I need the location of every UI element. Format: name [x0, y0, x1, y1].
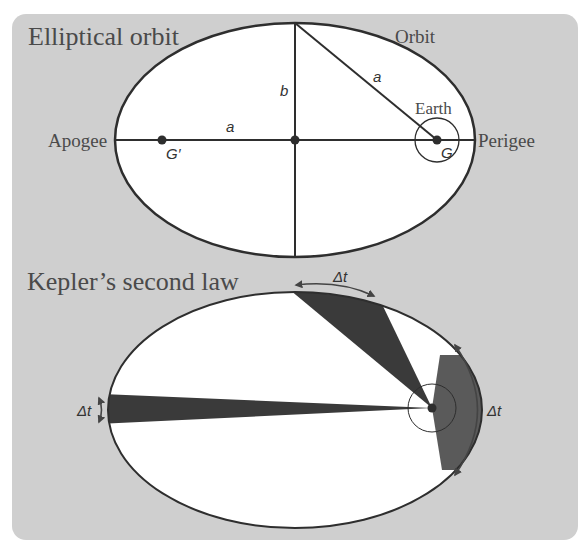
orbit-label: Orbit [395, 26, 436, 47]
semi-minor-label: b [280, 82, 288, 99]
semi-major-label: a [226, 118, 234, 135]
right-interval-label: Δt [486, 402, 502, 419]
focus-label: G [441, 144, 453, 161]
earth-label: Earth [415, 99, 452, 118]
focus-dot-bottom [428, 404, 437, 413]
diagonal-a-label: a [373, 68, 381, 85]
empty-focus-dot [158, 136, 167, 145]
empty-focus-label: G′ [166, 145, 182, 162]
apogee-label: Apogee [48, 130, 107, 151]
left-interval-label: Δt [76, 402, 92, 419]
kepler-figure: Elliptical orbit Orbit Earth Apogee Peri… [0, 0, 587, 549]
perigee-label: Perigee [478, 130, 535, 151]
top-interval-label: Δt [332, 268, 348, 285]
keplers-second-law-title: Kepler’s second law [27, 267, 239, 296]
center-dot [291, 136, 300, 145]
elliptical-orbit-title: Elliptical orbit [28, 22, 180, 51]
